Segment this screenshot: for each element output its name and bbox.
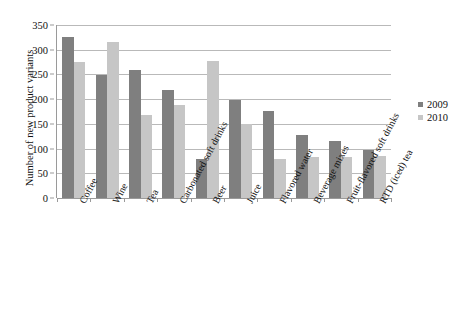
bar-group bbox=[263, 25, 286, 198]
y-tick-label: 50 bbox=[38, 168, 49, 179]
bar-group bbox=[229, 25, 252, 198]
y-axis-ticks: 050100150200250300350 bbox=[0, 25, 54, 198]
plot-area bbox=[56, 25, 391, 198]
y-tick-label: 300 bbox=[32, 44, 48, 55]
x-axis-line bbox=[57, 198, 391, 199]
y-tick-label: 250 bbox=[32, 69, 48, 80]
y-tick-mark bbox=[50, 25, 54, 26]
y-tick-mark bbox=[50, 123, 54, 124]
x-axis-labels: CoffeeWineTeaCarbonated soft drinksBeerJ… bbox=[56, 200, 390, 330]
chart-title bbox=[0, 0, 475, 10]
y-tick-mark bbox=[50, 148, 54, 149]
bar-group bbox=[129, 25, 152, 198]
y-tick-mark bbox=[50, 49, 54, 50]
legend-item-2010[interactable]: 2010 bbox=[418, 111, 448, 124]
bar-2009-tea[interactable] bbox=[129, 70, 141, 198]
bar-2010-tea[interactable] bbox=[141, 115, 153, 198]
y-tick-mark bbox=[50, 99, 54, 100]
legend-swatch-icon bbox=[418, 115, 423, 120]
bar-group bbox=[96, 25, 119, 198]
y-tick-label: 100 bbox=[32, 143, 48, 154]
y-tick-mark bbox=[50, 74, 54, 75]
bar-group bbox=[62, 25, 85, 198]
y-tick-label: 0 bbox=[43, 193, 48, 204]
bar-chart: Number of new product variants 050100150… bbox=[0, 0, 475, 335]
y-tick-label: 150 bbox=[32, 118, 48, 129]
bar-2009-coffee[interactable] bbox=[62, 37, 74, 198]
legend-label: 2009 bbox=[427, 98, 448, 111]
y-tick-mark bbox=[50, 198, 54, 199]
bar-2009-carbonated-soft-drinks[interactable] bbox=[162, 90, 174, 198]
legend-swatch-icon bbox=[418, 102, 423, 107]
bar-group bbox=[162, 25, 185, 198]
legend-label: 2010 bbox=[427, 111, 448, 124]
bar-2009-flavored-water[interactable] bbox=[263, 111, 275, 198]
legend-item-2009[interactable]: 2009 bbox=[418, 98, 448, 111]
bar-2010-wine[interactable] bbox=[107, 42, 119, 198]
y-tick-label: 350 bbox=[32, 20, 48, 31]
bar-2010-carbonated-soft-drinks[interactable] bbox=[174, 105, 186, 198]
bar-2010-coffee[interactable] bbox=[74, 62, 86, 198]
x-tick-mark bbox=[391, 198, 392, 202]
y-tick-mark bbox=[50, 173, 54, 174]
chart-legend: 20092010 bbox=[418, 98, 448, 124]
bar-2009-juice[interactable] bbox=[229, 100, 241, 198]
y-tick-label: 200 bbox=[32, 94, 48, 105]
